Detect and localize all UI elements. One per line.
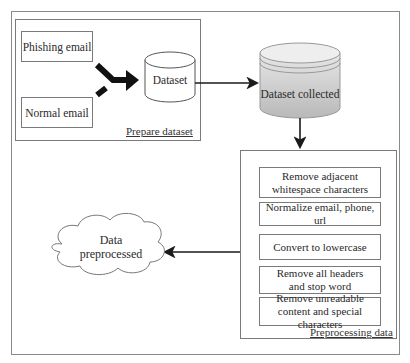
- step-remove-unreadable: Remove unreadable content and special ch…: [259, 297, 381, 326]
- step-label: Normalize email, phone, url: [260, 201, 380, 227]
- step-label: Convert to lowercase: [273, 241, 366, 254]
- cloud-line-2: preprocessed: [80, 247, 143, 261]
- dataset-collected-label: Dataset collected: [258, 86, 342, 102]
- step-remove-headers: Remove all headers and stop word: [259, 266, 381, 294]
- dataset-label: Dataset: [145, 72, 195, 88]
- step-normalize: Normalize email, phone, url: [259, 202, 381, 226]
- dataset-collected-cylinder: [260, 43, 340, 118]
- step-label: Remove adjacent whitespace characters: [260, 170, 380, 196]
- step-label: Remove all headers and stop word: [260, 267, 380, 293]
- preprocessing-data-caption: Preprocessing data: [310, 326, 393, 338]
- step-lowercase: Convert to lowercase: [259, 234, 381, 260]
- data-preprocessed-label: Data preprocessed: [66, 231, 156, 263]
- merge-arrow: [97, 65, 139, 95]
- step-remove-whitespace: Remove adjacent whitespace characters: [259, 167, 381, 198]
- cloud-line-1: Data: [100, 233, 123, 247]
